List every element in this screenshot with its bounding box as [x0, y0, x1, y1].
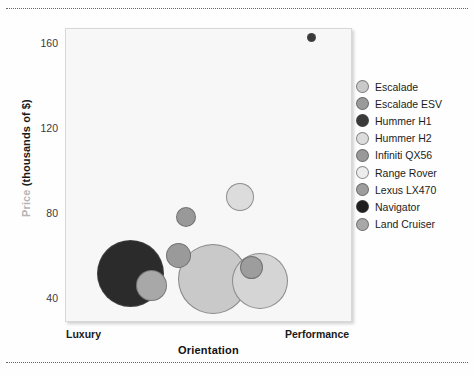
legend-swatch-icon [356, 97, 369, 110]
legend-swatch-icon [356, 114, 369, 127]
legend-swatch-icon [356, 166, 369, 179]
bubble-hummer-h1[interactable] [307, 33, 316, 42]
legend-item[interactable]: Hummer H2 [356, 130, 442, 147]
bubble-chart-figure: 1601208040 Price (thousands of $) Luxury… [0, 0, 474, 376]
legend-item-label: Navigator [375, 201, 420, 213]
legend-item[interactable]: Land Cruiser [356, 216, 442, 233]
y-axis-title-hard: (thousands of $) [20, 99, 32, 189]
legend-item-label: Infiniti QX56 [375, 149, 432, 161]
legend-item[interactable]: Escalade ESV [356, 95, 442, 112]
legend-item-label: Escalade [375, 81, 418, 93]
bubble-infiniti-qx56[interactable] [176, 207, 196, 227]
legend-swatch-icon [356, 132, 369, 145]
legend: EscaladeEscalade ESVHummer H1Hummer H2In… [356, 78, 442, 233]
legend-item-label: Escalade ESV [375, 98, 442, 110]
bubble-hummer-h2[interactable] [226, 183, 254, 211]
legend-item[interactable]: Range Rover [356, 164, 442, 181]
legend-swatch-icon [356, 200, 369, 213]
legend-swatch-icon [356, 183, 369, 196]
x-axis-label-left: Luxury [66, 328, 101, 340]
legend-item-label: Range Rover [375, 167, 437, 179]
plot-area[interactable] [65, 28, 352, 322]
legend-item-label: Land Cruiser [375, 218, 435, 230]
bubble-lexus-lx470[interactable] [240, 256, 263, 279]
legend-item[interactable]: Escalade [356, 78, 442, 95]
legend-item[interactable]: Hummer H1 [356, 112, 442, 129]
legend-swatch-icon [356, 80, 369, 93]
bubble-layer [66, 29, 351, 321]
legend-item-label: Lexus LX470 [375, 184, 436, 196]
bubble-escalade-esv[interactable] [166, 243, 191, 268]
y-axis-title: Price (thousands of $) [20, 8, 32, 308]
bubble-land-cruiser[interactable] [136, 270, 167, 301]
legend-swatch-icon [356, 218, 369, 231]
legend-item-label: Hummer H2 [375, 132, 432, 144]
legend-item[interactable]: Lexus LX470 [356, 181, 442, 198]
legend-swatch-icon [356, 149, 369, 162]
legend-item[interactable]: Navigator [356, 198, 442, 215]
legend-item-label: Hummer H1 [375, 115, 432, 127]
x-axis-title: Orientation [65, 344, 352, 356]
x-axis-label-right: Performance [285, 328, 349, 340]
legend-item[interactable]: Infiniti QX56 [356, 147, 442, 164]
y-axis-title-soft: Price [20, 189, 32, 216]
